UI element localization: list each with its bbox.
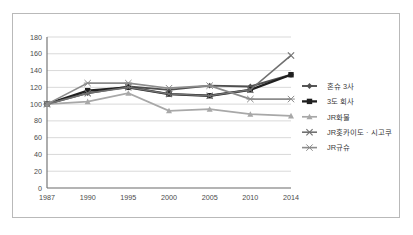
legend-label: JR화물 bbox=[327, 113, 350, 122]
y-tick-label: 80 bbox=[34, 116, 42, 125]
gridlines bbox=[47, 37, 291, 171]
legend-item[interactable]: JR규슈 bbox=[302, 143, 350, 152]
series-marker-star bbox=[246, 96, 254, 102]
line-chart: 020406080100120140160180 198719901995200… bbox=[0, 0, 413, 235]
series-layer bbox=[43, 52, 295, 118]
series-marker-star bbox=[306, 144, 314, 150]
series-marker-diamond bbox=[307, 83, 313, 89]
x-tick-label: 2014 bbox=[283, 193, 299, 202]
series-marker-square bbox=[307, 99, 312, 104]
y-tick-label: 40 bbox=[34, 150, 42, 159]
y-tick-label: 100 bbox=[30, 100, 42, 109]
x-tick-label: 2005 bbox=[202, 193, 218, 202]
chart-legend: 혼슈 3사3도 회사JR화물JR홋카이도 · 시고쿠JR규슈 bbox=[302, 82, 392, 153]
legend-item[interactable]: JR홋카이도 · 시고쿠 bbox=[302, 128, 392, 137]
series-marker-square bbox=[288, 72, 293, 77]
x-axis-tick-labels: 1987199019952000200520102014 bbox=[39, 193, 299, 202]
x-tick-label: 1995 bbox=[120, 193, 136, 202]
x-tick-label: 2010 bbox=[242, 193, 258, 202]
y-tick-label: 140 bbox=[30, 66, 42, 75]
legend-label: JR홋카이도 · 시고쿠 bbox=[327, 128, 392, 137]
y-tick-label: 20 bbox=[34, 167, 42, 176]
y-axis-tick-labels: 020406080100120140160180 bbox=[30, 33, 42, 193]
y-tick-label: 60 bbox=[34, 133, 42, 142]
x-tick-label: 1990 bbox=[80, 193, 96, 202]
y-tick-label: 160 bbox=[30, 49, 42, 58]
y-tick-label: 120 bbox=[30, 83, 42, 92]
legend-label: 혼슈 3사 bbox=[327, 82, 354, 91]
legend-item[interactable]: 혼슈 3사 bbox=[302, 82, 354, 91]
series-marker-cross bbox=[288, 52, 294, 58]
legend-label: JR규슈 bbox=[327, 143, 350, 152]
x-tick-label: 1987 bbox=[39, 193, 55, 202]
y-tick-label: 0 bbox=[38, 184, 42, 193]
legend-item[interactable]: 3도 회사 bbox=[302, 97, 354, 106]
legend-item[interactable]: JR화물 bbox=[302, 113, 350, 122]
x-tick-label: 2000 bbox=[161, 193, 177, 202]
series-marker-star bbox=[84, 80, 92, 86]
legend-label: 3도 회사 bbox=[327, 97, 354, 106]
series-marker-star bbox=[287, 96, 295, 102]
y-tick-label: 180 bbox=[30, 33, 42, 42]
